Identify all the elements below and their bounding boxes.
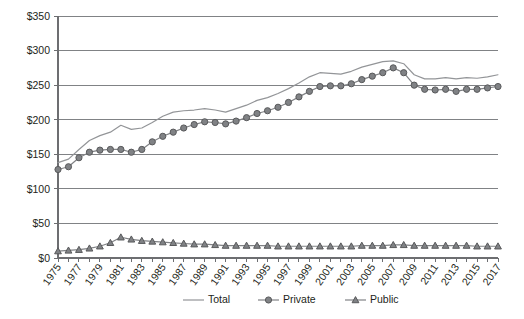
x-axis-tick-label: 1997	[270, 261, 293, 287]
axes	[54, 16, 498, 258]
data-point-marker	[463, 86, 469, 92]
data-point-marker	[65, 164, 71, 170]
data-point-marker	[97, 147, 103, 153]
data-point-marker	[170, 129, 176, 135]
data-point-marker	[380, 70, 386, 76]
x-axis-tick-label: 2009	[396, 261, 419, 287]
data-point-marker	[484, 85, 490, 91]
x-axis-tick-label: 2017	[480, 261, 503, 287]
data-point-marker	[306, 88, 312, 94]
data-point-marker	[359, 77, 365, 83]
y-axis-tick-label: $200	[27, 114, 51, 126]
x-axis-tick-label: 2007	[375, 261, 398, 287]
x-axis-tick-label: 1993	[228, 261, 251, 287]
data-point-marker	[223, 121, 229, 127]
data-point-marker	[401, 70, 407, 76]
legend: TotalPrivatePublic	[183, 293, 399, 305]
data-point-marker	[369, 73, 375, 79]
legend-label: Total	[208, 293, 230, 305]
data-point-marker	[243, 115, 249, 121]
data-point-marker	[107, 146, 113, 152]
data-point-marker	[443, 86, 449, 92]
data-point-marker	[296, 94, 302, 100]
x-axis-tick-label: 2011	[417, 261, 440, 287]
data-point-marker	[128, 149, 134, 155]
data-point-marker	[76, 155, 82, 161]
data-point-marker	[55, 166, 61, 172]
data-point-marker	[265, 297, 271, 303]
y-axis-tick-label: $250	[27, 79, 51, 91]
x-axis-tick-label: 1987	[166, 261, 189, 287]
legend-label: Private	[283, 293, 316, 305]
y-axis-tick-label: $300	[27, 44, 51, 56]
x-axis-tick-label: 1999	[291, 261, 314, 287]
x-axis-tick-label: 2005	[354, 261, 377, 287]
y-axis-tick-label: $0	[38, 252, 50, 264]
series-line-total	[58, 61, 498, 163]
series-layer	[55, 61, 502, 254]
data-point-marker	[474, 86, 480, 92]
legend-item-private[interactable]: Private	[258, 293, 316, 305]
data-point-marker	[411, 82, 417, 88]
data-point-marker	[181, 125, 187, 131]
gridlines	[58, 16, 498, 258]
x-axis-tick-label: 1983	[124, 261, 147, 287]
chart-container: $0$50$100$150$200$250$300$350 1975197719…	[0, 0, 524, 319]
y-tick-labels: $0$50$100$150$200$250$300$350	[27, 10, 51, 264]
y-axis-tick-label: $150	[27, 148, 51, 160]
x-axis-tick-label: 1981	[103, 261, 126, 287]
y-axis-tick-label: $50	[32, 217, 50, 229]
series-private	[55, 65, 501, 173]
x-axis-tick-label: 1989	[187, 261, 210, 287]
data-point-marker	[453, 88, 459, 94]
data-point-marker	[202, 119, 208, 125]
series-public	[55, 234, 502, 254]
x-axis-tick-label: 2013	[438, 261, 461, 287]
data-point-marker	[212, 119, 218, 125]
data-point-marker	[139, 146, 145, 152]
data-point-marker	[327, 83, 333, 89]
line-chart: $0$50$100$150$200$250$300$350 1975197719…	[0, 0, 524, 319]
data-point-marker	[495, 83, 501, 89]
x-axis-tick-label: 1979	[82, 261, 105, 287]
legend-item-public[interactable]: Public	[345, 293, 399, 305]
data-point-marker	[264, 108, 270, 114]
x-axis-tick-label: 1977	[61, 261, 84, 287]
x-axis-tick-label: 1975	[40, 261, 63, 287]
legend-item-total[interactable]: Total	[183, 293, 230, 305]
x-axis-tick-label: 2001	[312, 261, 335, 287]
data-point-marker	[317, 83, 323, 89]
legend-label: Public	[370, 293, 399, 305]
x-axis-tick-label: 1991	[208, 261, 231, 287]
y-axis-tick-label: $100	[27, 183, 51, 195]
data-point-marker	[160, 133, 166, 139]
x-tick-labels: 1975197719791981198319851987198919911993…	[40, 261, 503, 287]
x-axis-tick-label: 2015	[459, 261, 482, 287]
data-point-marker	[86, 149, 92, 155]
data-point-marker	[107, 239, 114, 245]
data-point-marker	[149, 139, 155, 145]
data-point-marker	[390, 65, 396, 71]
data-point-marker	[348, 81, 354, 87]
data-point-marker	[338, 83, 344, 89]
data-point-marker	[117, 234, 124, 240]
data-point-marker	[422, 86, 428, 92]
data-point-marker	[118, 146, 124, 152]
x-axis-tick-label: 1995	[249, 261, 272, 287]
data-point-marker	[275, 104, 281, 110]
data-point-marker	[432, 87, 438, 93]
data-point-marker	[285, 99, 291, 105]
data-point-marker	[254, 110, 260, 116]
y-axis-tick-label: $350	[27, 10, 51, 22]
data-point-marker	[191, 121, 197, 127]
x-axis-tick-label: 1985	[145, 261, 168, 287]
data-point-marker	[233, 118, 239, 124]
series-total	[58, 61, 498, 163]
x-axis-tick-label: 2003	[333, 261, 356, 287]
